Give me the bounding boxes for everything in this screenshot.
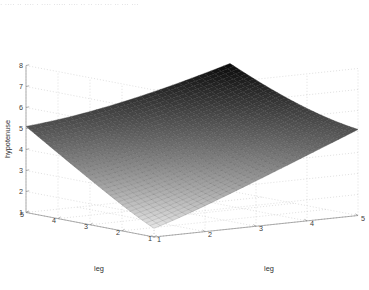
tick-z-8 — [26, 65, 29, 66]
tick-label-x-1: 1 — [157, 235, 161, 244]
tick-label-z-6: 6 — [19, 103, 23, 112]
top-cutoff-text-strip: · ···· ·· ···· · ···· ····· ···· ·· ·· ·… — [0, 0, 369, 9]
tick-label-x-5: 5 — [361, 214, 365, 223]
tick-label-z-3: 3 — [19, 166, 23, 175]
tick-label-z-8: 8 — [19, 61, 23, 70]
tick-label-z-2: 2 — [19, 187, 23, 196]
tick-label-y-3: 3 — [84, 222, 88, 231]
surface-plot-svg: 123456781234512345hypotenuselegleg — [0, 9, 369, 290]
tick-label-z-7: 7 — [19, 82, 23, 91]
tick-label-z-4: 4 — [19, 145, 23, 154]
tick-label-x-2: 2 — [208, 230, 212, 239]
tick-label-z-5: 5 — [19, 124, 23, 133]
axis-label-x: leg — [264, 264, 274, 273]
axis-label-z: hypotenuse — [3, 120, 12, 158]
tick-label-x-4: 4 — [310, 219, 314, 228]
figure-window: · ···· ·· ···· · ···· ····· ···· ·· ·· ·… — [0, 0, 369, 290]
tick-label-y-2: 2 — [116, 228, 120, 237]
axis-label-y: leg — [94, 264, 104, 273]
tick-label-y-4: 4 — [52, 216, 56, 225]
tick-label-y-5: 5 — [20, 210, 24, 219]
tick-label-x-3: 3 — [259, 224, 263, 233]
plot-figure: 123456781234512345hypotenuselegleg — [0, 9, 369, 290]
